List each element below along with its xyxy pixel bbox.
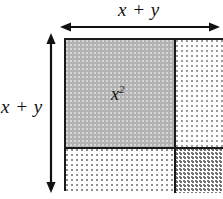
x-squared-area-label: x2 [111,84,125,105]
x-squared-exponent: 2 [119,83,125,95]
horizontal-dimension-arrow [60,19,220,35]
xy-region-bottom [66,149,176,193]
y-squared-region [176,149,223,193]
top-dimension-label: x + y [118,0,160,21]
xy-region-right [176,40,223,149]
partitioned-square [64,38,223,191]
area-model-figure: x + y x + y x2 [0,0,223,199]
x-squared-base: x [111,84,119,104]
vertical-dimension-arrow [43,33,59,193]
left-dimension-label: x + y [1,96,43,118]
